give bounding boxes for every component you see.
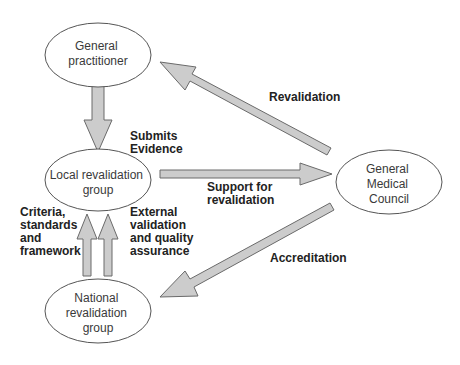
node-label-gmc: General Medical Council	[366, 162, 412, 206]
label-revalidation: Revalidation	[269, 90, 340, 104]
revalidation-diagram: General practitioner Local revalidation …	[0, 0, 460, 365]
label-submits-evidence: Submits Evidence	[130, 129, 183, 156]
label-support-for-revalidation: Support for revalidation	[207, 180, 276, 207]
arrow-gmc-to-gp	[160, 62, 331, 155]
label-criteria-standards-framework: Criteria, standards and framework	[20, 205, 81, 258]
label-accreditation: Accreditation	[270, 251, 347, 265]
node-label-gp: General practitioner	[68, 39, 127, 68]
arrow-gp-to-local	[84, 84, 112, 152]
label-external-validation-quality: External validation and quality assuranc…	[130, 205, 197, 258]
arrow-national-to-local-external	[98, 214, 118, 276]
